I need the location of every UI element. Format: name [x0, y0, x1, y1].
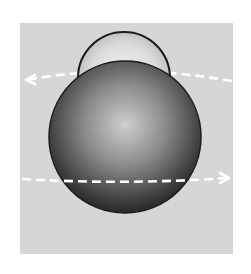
large-sphere [49, 61, 201, 213]
sphere-diagram [0, 0, 251, 274]
diagram-figure [0, 0, 251, 274]
